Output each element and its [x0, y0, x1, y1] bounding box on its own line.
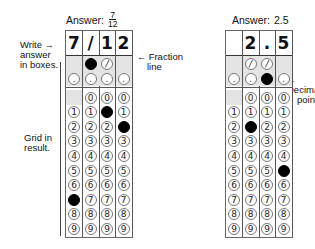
digit-bubble[interactable]: 5: [245, 165, 257, 177]
digit-bubble[interactable]: 5: [101, 165, 113, 177]
fraction-bubble[interactable]: /: [245, 58, 257, 70]
digit-bubble[interactable]: 2: [261, 121, 273, 133]
digit-bubble[interactable]: 5: [68, 165, 80, 177]
digit-bubble[interactable]: 5: [261, 165, 273, 177]
fraction-bubble[interactable]: /: [261, 58, 273, 70]
digit-row-cell: 7: [66, 192, 82, 207]
decimal-bubble[interactable]: .: [118, 73, 130, 85]
digit-bubble[interactable]: 7: [118, 194, 130, 206]
written-answer-box[interactable]: /: [83, 31, 99, 56]
digit-bubble[interactable]: 9: [261, 223, 273, 235]
digit-bubble[interactable]: 7: [228, 194, 240, 206]
written-answer-box[interactable]: 7: [66, 31, 82, 56]
digit-bubble[interactable]: 8: [101, 208, 113, 220]
digit-bubble[interactable]: 4: [85, 150, 97, 162]
digit-bubble[interactable]: 9: [85, 223, 97, 235]
digit-bubble-filled[interactable]: 7: [68, 194, 80, 206]
digit-bubble[interactable]: 7: [278, 194, 290, 206]
decimal-bubble[interactable]: .: [68, 73, 80, 85]
digit-bubble[interactable]: 9: [118, 223, 130, 235]
digit-bubble[interactable]: 2: [85, 121, 97, 133]
digit-bubble[interactable]: 7: [245, 194, 257, 206]
digit-bubble[interactable]: 3: [261, 135, 273, 147]
digit-bubble[interactable]: 8: [228, 208, 240, 220]
digit-bubble[interactable]: 6: [261, 179, 273, 191]
digit-bubble-filled[interactable]: 1: [101, 106, 113, 118]
digit-bubble-filled[interactable]: 2: [118, 121, 130, 133]
digit-bubble[interactable]: 6: [118, 179, 130, 191]
written-answer-box[interactable]: 2: [116, 31, 132, 56]
written-answer-box[interactable]: 1: [99, 31, 115, 56]
digit-bubble[interactable]: 1: [85, 106, 97, 118]
digit-bubble[interactable]: 0: [101, 92, 113, 104]
digit-bubble[interactable]: 4: [101, 150, 113, 162]
digit-bubble[interactable]: 4: [118, 150, 130, 162]
digit-bubble[interactable]: 8: [245, 208, 257, 220]
digit-bubble[interactable]: 8: [118, 208, 130, 220]
digit-bubble[interactable]: 5: [118, 165, 130, 177]
digit-bubble[interactable]: 2: [228, 121, 240, 133]
digit-bubble[interactable]: 3: [278, 135, 290, 147]
digit-bubble[interactable]: 5: [228, 165, 240, 177]
digit-bubble[interactable]: 7: [85, 194, 97, 206]
fraction-bubble[interactable]: /: [101, 58, 113, 70]
fraction-bubble-filled[interactable]: /: [85, 58, 97, 70]
digit-row-cell: 8: [99, 207, 115, 222]
digit-bubble[interactable]: 4: [68, 150, 80, 162]
digit-bubble[interactable]: 3: [118, 135, 130, 147]
digit-bubble[interactable]: 6: [228, 179, 240, 191]
digit-bubble[interactable]: 3: [85, 135, 97, 147]
digit-bubble[interactable]: 0: [85, 92, 97, 104]
written-answer-box[interactable]: .: [259, 31, 275, 56]
digit-bubble[interactable]: 6: [68, 179, 80, 191]
digit-bubble[interactable]: 6: [278, 179, 290, 191]
digit-bubble[interactable]: 6: [101, 179, 113, 191]
digit-bubble[interactable]: 4: [261, 150, 273, 162]
written-answer-box[interactable]: 5: [276, 31, 292, 56]
digit-bubble[interactable]: 7: [101, 194, 113, 206]
digit-bubble[interactable]: 1: [245, 106, 257, 118]
digit-bubble[interactable]: 1: [68, 106, 80, 118]
digit-bubble[interactable]: 6: [245, 179, 257, 191]
digit-bubble[interactable]: 1: [261, 106, 273, 118]
digit-bubble[interactable]: 1: [278, 106, 290, 118]
digit-bubble[interactable]: 9: [101, 223, 113, 235]
digit-bubble[interactable]: 2: [68, 121, 80, 133]
digit-bubble[interactable]: 8: [278, 208, 290, 220]
decimal-bubble[interactable]: .: [101, 73, 113, 85]
digit-bubble[interactable]: 2: [278, 121, 290, 133]
digit-bubble[interactable]: 0: [261, 92, 273, 104]
digit-bubble[interactable]: 3: [228, 135, 240, 147]
digit-bubble[interactable]: 3: [101, 135, 113, 147]
digit-bubble[interactable]: 5: [85, 165, 97, 177]
digit-bubble[interactable]: 7: [261, 194, 273, 206]
digit-bubble[interactable]: 4: [228, 150, 240, 162]
digit-bubble[interactable]: 0: [118, 92, 130, 104]
digit-bubble[interactable]: 1: [118, 106, 130, 118]
digit-bubble-filled[interactable]: 2: [245, 121, 257, 133]
digit-bubble[interactable]: 8: [261, 208, 273, 220]
digit-bubble[interactable]: 9: [68, 223, 80, 235]
digit-bubble[interactable]: 1: [228, 106, 240, 118]
digit-bubble[interactable]: 4: [278, 150, 290, 162]
digit-bubble[interactable]: 8: [85, 208, 97, 220]
digit-bubble[interactable]: 0: [278, 92, 290, 104]
decimal-bubble[interactable]: .: [85, 73, 97, 85]
decimal-bubble[interactable]: .: [278, 73, 290, 85]
decimal-bubble[interactable]: .: [228, 73, 240, 85]
digit-bubble[interactable]: 9: [245, 223, 257, 235]
digit-bubble[interactable]: 9: [278, 223, 290, 235]
decimal-bubble-filled[interactable]: .: [261, 73, 273, 85]
digit-bubble[interactable]: 0: [245, 92, 257, 104]
written-answer-box[interactable]: [226, 31, 242, 56]
digit-bubble[interactable]: 8: [68, 208, 80, 220]
digit-bubble[interactable]: 4: [245, 150, 257, 162]
digit-bubble-filled[interactable]: 5: [278, 165, 290, 177]
digit-bubble[interactable]: 9: [228, 223, 240, 235]
digit-bubble[interactable]: 6: [85, 179, 97, 191]
digit-bubble[interactable]: 3: [68, 135, 80, 147]
decimal-bubble[interactable]: .: [245, 73, 257, 85]
digit-bubble[interactable]: 2: [101, 121, 113, 133]
digit-bubble[interactable]: 3: [245, 135, 257, 147]
written-answer-box[interactable]: 2: [243, 31, 259, 56]
